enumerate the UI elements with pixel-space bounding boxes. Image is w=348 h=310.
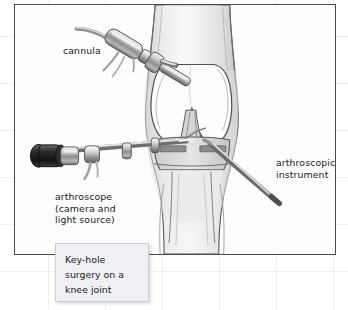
leg-anatomy bbox=[144, 5, 238, 254]
label-arthroscope: arthroscope (camera and light source) bbox=[55, 191, 116, 226]
illustration-frame: cannula arthroscope (camera and light so… bbox=[14, 4, 336, 255]
label-cannula: cannula bbox=[63, 45, 101, 57]
label-arthroscopic-instrument: arthroscopic instrument bbox=[276, 157, 335, 180]
caption-text: Key-hole surgery on a knee joint bbox=[65, 252, 124, 297]
caption-box: Key-hole surgery on a knee joint bbox=[55, 243, 149, 302]
